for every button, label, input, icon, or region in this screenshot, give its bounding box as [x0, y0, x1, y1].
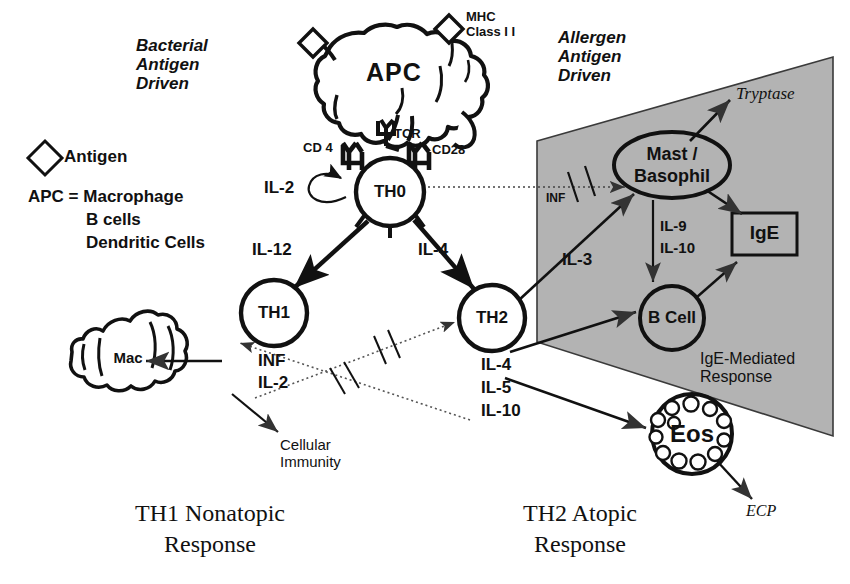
- tcr-label: TCR: [394, 127, 421, 142]
- arrow-cellular-immunity: [232, 394, 278, 432]
- header-right: Allergen Antigen Driven: [558, 28, 626, 85]
- ige-label: IgE: [732, 222, 797, 243]
- il4-th0-label: IL-4: [418, 240, 448, 259]
- legend-apc-line2: B cells: [86, 210, 141, 229]
- il2-autocrine-label: IL-2: [264, 178, 294, 197]
- th2-il4-label: IL-4: [481, 355, 511, 374]
- inf-th1-label: INF: [258, 351, 285, 370]
- il10-mast-label: IL-10: [660, 240, 695, 257]
- mhc-class-ii-label: MHC Class I I: [466, 10, 515, 39]
- legend-apc-line1: APC = Macrophage: [28, 187, 183, 206]
- eos-label: Eos: [652, 421, 732, 448]
- arrow-th2-eos: [505, 378, 646, 428]
- th1-label: TH1: [244, 303, 304, 322]
- inf-gray-label: INF: [546, 192, 565, 205]
- diagram-vector-layer: [0, 0, 850, 584]
- arrow-eos-ecp: [717, 461, 752, 499]
- il2-th1-label: IL-2: [258, 373, 288, 392]
- il9-label: IL-9: [660, 218, 687, 235]
- th2-il5-label: IL-5: [481, 378, 511, 397]
- diagram-canvas: Bacterial Antigen Driven Allergen Antige…: [0, 0, 850, 584]
- mast-basophil-cell: [614, 132, 730, 198]
- legend-antigen-label: Antigen: [64, 147, 127, 166]
- title-left: TH1 Nonatopic Response: [80, 498, 340, 560]
- th0-label: TH0: [360, 182, 420, 201]
- legend-antigen-diamond: [28, 141, 62, 175]
- apc-label: APC: [366, 58, 422, 86]
- cd4-label: CD 4: [303, 141, 333, 156]
- mast-label: Mast /: [622, 144, 722, 164]
- il3-label: IL-3: [562, 250, 592, 269]
- cellular-immunity-label: Cellular Immunity: [280, 437, 341, 471]
- tryptase-label: Tryptase: [736, 84, 795, 103]
- antigen-diamond-apc-left: [299, 29, 327, 57]
- bcell-label: B Cell: [640, 308, 704, 327]
- th2-label: TH2: [462, 308, 522, 327]
- header-left: Bacterial Antigen Driven: [136, 36, 208, 93]
- ecp-label: ECP: [746, 502, 776, 520]
- basophil-label: Basophil: [622, 166, 722, 186]
- legend-apc-line3: Dendritic Cells: [86, 233, 205, 252]
- title-right: TH2 Atopic Response: [450, 498, 710, 560]
- mac-label: Mac: [98, 350, 158, 367]
- il12-label: IL-12: [252, 240, 292, 259]
- il2-autocrine-arrow: [309, 174, 346, 202]
- th2-il10-label: IL-10: [481, 401, 521, 420]
- ige-mediated-label: IgE-Mediated Response: [700, 350, 795, 386]
- arrow-th0-th1: [294, 221, 368, 288]
- cd28-label: CD28: [432, 143, 465, 158]
- cd4-receptor-icon: [343, 143, 362, 170]
